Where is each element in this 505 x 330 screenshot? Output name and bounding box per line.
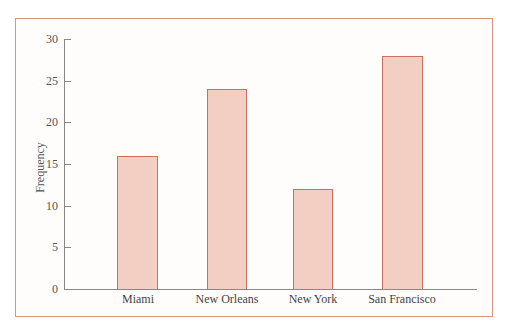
y-tick-label: 5 — [34, 241, 58, 253]
x-category-label: San Francisco — [352, 292, 452, 307]
x-category-label: New Orleans — [177, 292, 277, 307]
bar-san-francisco — [382, 56, 423, 289]
x-category-label: Miami — [88, 292, 188, 307]
bar-new-york — [293, 189, 333, 289]
y-tick-label: 10 — [34, 200, 58, 212]
y-tick-label: 20 — [34, 116, 58, 128]
y-tick-label: 30 — [34, 33, 58, 45]
y-tick — [64, 81, 71, 82]
bar-new-orleans — [207, 89, 247, 289]
y-tick-label: 25 — [34, 75, 58, 87]
bar-miami — [117, 156, 158, 289]
y-tick — [64, 39, 71, 40]
y-tick — [64, 206, 71, 207]
y-tick — [64, 247, 71, 248]
y-tick-label: 0 — [34, 283, 58, 295]
y-tick — [64, 164, 71, 165]
y-tick — [64, 289, 71, 290]
y-tick-label: 15 — [34, 158, 58, 170]
x-category-label: New York — [263, 292, 363, 307]
x-axis-line — [64, 289, 477, 290]
y-tick — [64, 122, 71, 123]
